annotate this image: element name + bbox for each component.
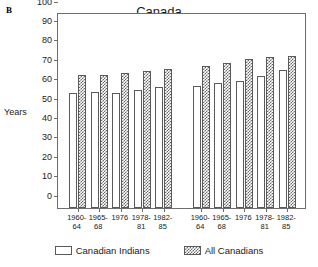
x-axis-tick-mark	[287, 208, 288, 212]
y-axis-tick: 40	[42, 112, 58, 124]
y-axis-title: Years	[4, 108, 27, 117]
y-axis-tick: 50	[42, 93, 58, 105]
bar-female-1960-64-all-canadians	[202, 66, 210, 208]
x-axis-tick-mark	[244, 208, 245, 212]
bar-male-1965-68-canadian-indians	[91, 92, 99, 208]
y-axis-tick-label: 50	[42, 95, 52, 104]
y-axis-tick-label: 20	[42, 153, 52, 162]
chart-legend: Canadian IndiansAll Canadians	[0, 246, 318, 256]
x-label-line-2: 85	[150, 222, 176, 231]
y-axis-tick-label: 60	[42, 75, 52, 84]
x-axis-tick-label: 1982-85	[150, 213, 176, 231]
x-axis-tick-mark	[201, 208, 202, 212]
y-axis-tick: 10	[42, 171, 58, 183]
x-label-line-1: 1982-	[150, 213, 176, 222]
bar-female-1982-85-all-canadians	[288, 56, 296, 208]
plot-area: 0102030405060708090100	[57, 13, 306, 209]
x-label-line-2: 68	[85, 222, 111, 231]
y-axis-tick-label: 90	[42, 17, 52, 26]
bar-female-1978-81-canadian-indians	[257, 76, 265, 208]
x-axis-tick-mark	[99, 208, 100, 212]
y-axis-tick: 60	[42, 74, 58, 86]
x-label-line-2: 85	[273, 222, 299, 231]
bar-male-1965-68-all-canadians	[100, 75, 108, 208]
y-axis-tick: 80	[42, 35, 58, 47]
bar-male-1982-85-canadian-indians	[155, 87, 163, 208]
y-axis-tick: 90	[42, 15, 58, 27]
y-axis-tick: 30	[42, 132, 58, 144]
x-axis-tick-mark	[164, 208, 165, 212]
x-axis-tick-mark	[223, 208, 224, 212]
bar-male-1978-81-all-canadians	[143, 71, 151, 208]
bar-male-1960-64-all-canadians	[78, 75, 86, 208]
bar-male-1982-85-all-canadians	[164, 69, 172, 208]
y-axis-tick: 100	[37, 0, 58, 8]
x-axis-tick-mark	[78, 208, 79, 212]
x-axis-tick-mark	[142, 208, 143, 212]
y-axis-tick: 0	[47, 190, 58, 202]
y-axis-tick-label: 100	[37, 0, 52, 7]
legend-swatch-icon	[184, 246, 201, 255]
x-axis-tick-mark	[266, 208, 267, 212]
x-label-line-2: 68	[209, 222, 235, 231]
legend-item-all-canadians[interactable]: All Canadians	[184, 246, 264, 256]
y-axis-tick-mark	[54, 2, 58, 3]
x-axis-tick-label: 1982-85	[273, 213, 299, 231]
y-axis-tick-label: 40	[42, 114, 52, 123]
bars-layer	[58, 14, 305, 208]
legend-item-canadian-indians[interactable]: Canadian Indians	[55, 246, 150, 256]
y-axis-tick-label: 30	[42, 133, 52, 142]
y-axis-tick-label: 80	[42, 36, 52, 45]
bar-female-1965-68-canadian-indians	[214, 83, 222, 208]
x-label-line-1: 1982-	[273, 213, 299, 222]
bar-male-1960-64-canadian-indians	[69, 93, 77, 208]
bar-male-1976-canadian-indians	[112, 93, 120, 208]
y-axis-tick: 70	[42, 54, 58, 66]
y-axis-tick-label: 0	[47, 192, 52, 201]
bar-female-1965-68-all-canadians	[223, 63, 231, 208]
y-axis-tick-label: 70	[42, 56, 52, 65]
y-axis-tick: 20	[42, 151, 58, 163]
bar-female-1960-64-canadian-indians	[193, 86, 201, 208]
x-axis-labels: 1960-641965-6819761978-811982-851960-641…	[57, 213, 306, 237]
bar-female-1982-85-canadian-indians	[279, 70, 287, 208]
bar-male-1976-all-canadians	[121, 73, 129, 208]
x-axis-tick-mark	[121, 208, 122, 212]
y-axis-tick-label: 10	[42, 172, 52, 181]
legend-label: All Canadians	[205, 246, 264, 256]
bar-male-1978-81-canadian-indians	[134, 90, 142, 208]
bar-female-1976-all-canadians	[245, 59, 253, 208]
legend-label: Canadian Indians	[76, 246, 150, 256]
bar-female-1976-canadian-indians	[236, 81, 244, 208]
legend-swatch-icon	[55, 246, 72, 255]
bar-female-1978-81-all-canadians	[266, 57, 274, 208]
